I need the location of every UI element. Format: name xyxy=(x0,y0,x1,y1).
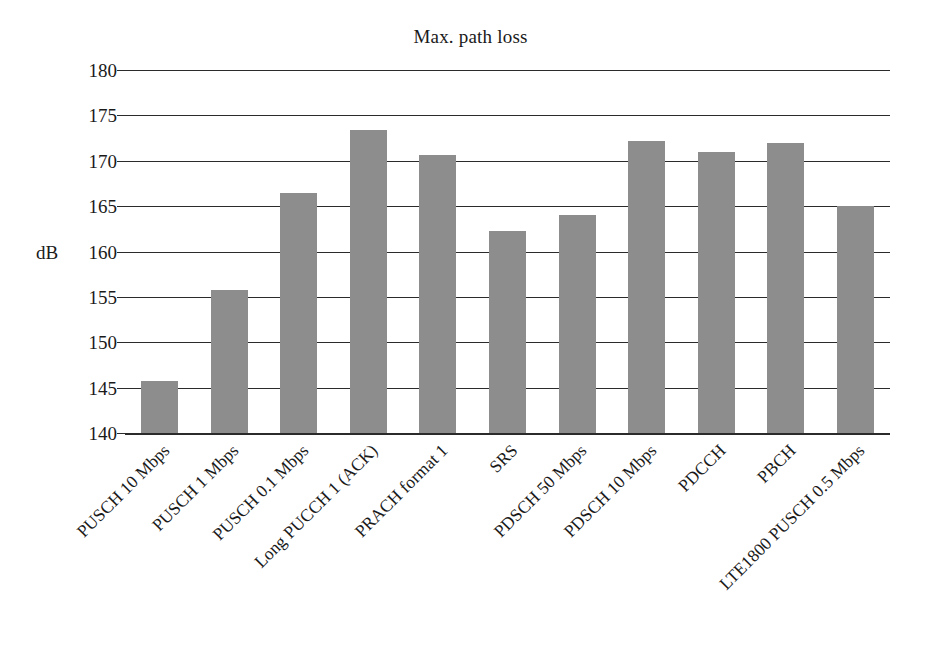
x-tick-label-text: PDCCH xyxy=(675,441,729,495)
x-tick-label-text: Long PUCCH 1 (ACK) xyxy=(251,441,381,571)
x-tick-label-text: LTE1800 PUSCH 0.5 Mbps xyxy=(716,441,868,593)
y-tick-label: 140 xyxy=(61,424,117,443)
bar xyxy=(767,143,804,433)
gridline-180 xyxy=(125,70,890,71)
y-tick-label: 145 xyxy=(61,379,117,398)
y-tick-label: 160 xyxy=(61,243,117,262)
y-tick-label: 170 xyxy=(61,152,117,171)
y-tick-label: 180 xyxy=(61,61,117,80)
bar xyxy=(141,381,178,433)
x-axis-labels: PUSCH 10 MbpsPUSCH 1 MbpsPUSCH 0.1 MbpsL… xyxy=(125,433,890,662)
bar xyxy=(559,215,596,433)
chart-title: Max. path loss xyxy=(0,26,941,48)
x-tick-label-text: SRS xyxy=(485,441,520,476)
gridline-175 xyxy=(125,115,890,116)
max-path-loss-chart: Max. path loss dB 1801751701651601551501… xyxy=(0,0,941,662)
x-tick-label-text: PBCH xyxy=(753,441,798,486)
y-tick-label: 165 xyxy=(61,197,117,216)
y-tick-label: 175 xyxy=(61,106,117,125)
y-tick-label: 150 xyxy=(61,333,117,352)
y-tick-label: 155 xyxy=(61,288,117,307)
bar xyxy=(837,206,874,433)
y-axis-ticks: 180175170165160155150145140 xyxy=(55,70,117,433)
